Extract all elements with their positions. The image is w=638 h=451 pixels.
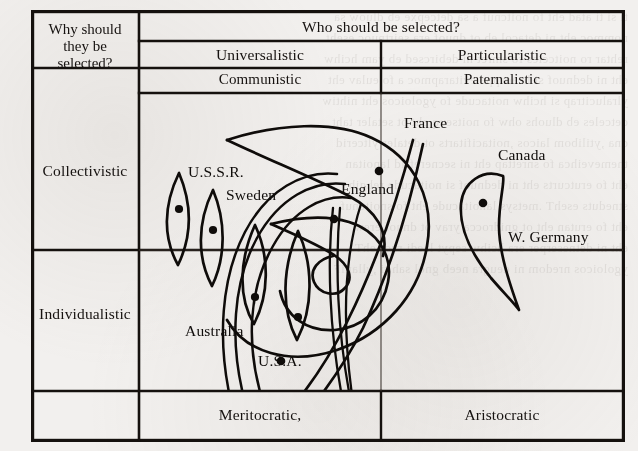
column-footer-aristocratic: Aristocratic — [381, 406, 623, 424]
country-label-w-germany: W. Germany — [508, 228, 589, 246]
corner-line-3: selected? — [31, 55, 139, 72]
country-label-sweden: Sweden — [226, 186, 276, 204]
country-label-england: England — [341, 180, 394, 198]
country-label-canada: Canada — [498, 146, 546, 164]
corner-line-1: Why should — [31, 21, 139, 38]
row-label-individualistic: Individualistic — [31, 305, 139, 323]
row-label-collectivistic: Collectivistic — [31, 162, 139, 180]
country-label-australia: Australia — [185, 322, 244, 340]
matrix-table: Why should they be selected? Who should … — [31, 10, 625, 442]
country-label-france: France — [404, 114, 447, 132]
glyph-sweden — [201, 190, 223, 286]
country-label-ussr: U.S.S.R. — [188, 163, 244, 181]
column-footer-meritocratic: Meritocratic, — [139, 406, 381, 424]
column-subheader-communistic: Communistic — [139, 71, 381, 88]
corner-header-label: Why should they be selected? — [31, 21, 139, 72]
column-header-universalistic: Universalistic — [139, 46, 381, 64]
corner-line-2: they be — [31, 38, 139, 55]
column-axis-header: Who should be selected? — [139, 18, 623, 36]
glyph-france — [227, 126, 429, 356]
country-label-usa: U.S.A. — [258, 352, 302, 370]
column-header-particularistic: Particularistic — [381, 46, 623, 64]
column-subheader-paternalistic: Paternalistic — [381, 71, 623, 88]
